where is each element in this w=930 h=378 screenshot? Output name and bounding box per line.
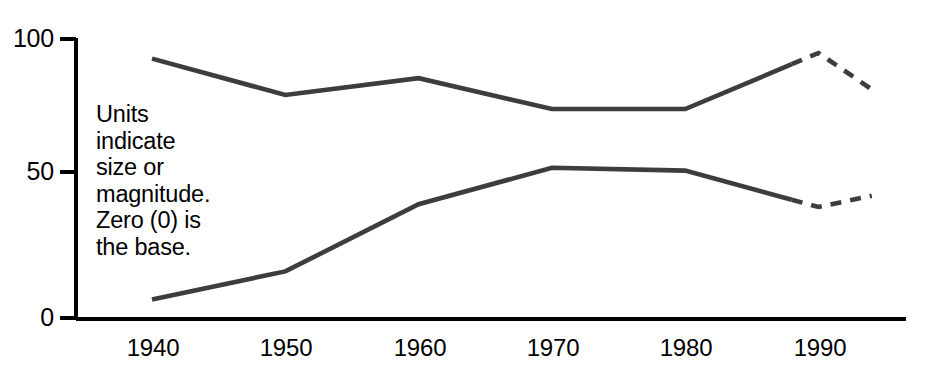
annotation-line-6: the base.: [96, 234, 286, 261]
line-chart-figure: 100 50 0 1940 1950 1960 1970 1980 1990 U…: [0, 0, 930, 378]
x-axis-label-1970: 1970: [503, 336, 603, 360]
annotation-line-4: magnitude.: [96, 181, 286, 208]
annotation-line-3: size or: [96, 154, 286, 181]
x-axis-label-1940: 1940: [103, 336, 203, 360]
x-axis-label-1990: 1990: [770, 336, 870, 360]
x-axis-label-1950: 1950: [236, 336, 336, 360]
x-axis-label-1980: 1980: [636, 336, 736, 360]
series-upper-dashed: [792, 53, 872, 89]
chart-annotation-note: Units indicate size or magnitude. Zero (…: [96, 101, 286, 261]
y-axis-label-50: 50: [0, 159, 54, 184]
annotation-line-5: Zero (0) is: [96, 207, 286, 234]
series-lower-dashed: [792, 196, 872, 207]
y-axis-label-0: 0: [0, 305, 54, 330]
y-axis-label-100: 100: [0, 26, 54, 51]
x-axis-label-1960: 1960: [370, 336, 470, 360]
annotation-line-2: indicate: [96, 128, 286, 155]
annotation-line-1: Units: [96, 101, 286, 128]
